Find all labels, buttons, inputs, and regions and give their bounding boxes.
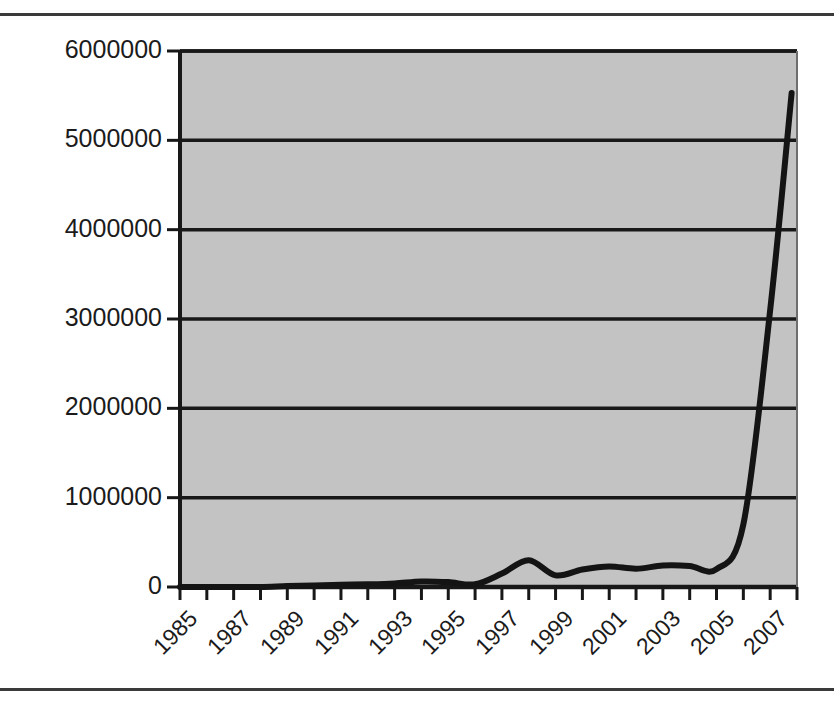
chart-plot-svg (0, 0, 834, 702)
y-axis-tick-label: 6000000 (65, 35, 162, 64)
y-axis-tick-label: 1000000 (65, 482, 162, 511)
y-axis-tick-label: 4000000 (65, 214, 162, 243)
y-axis-tick-label: 2000000 (65, 392, 162, 421)
y-axis-tick-label: 3000000 (65, 303, 162, 332)
line-chart: 0100000020000003000000400000050000006000… (0, 0, 834, 702)
y-axis-tick-label: 0 (148, 571, 162, 600)
figure-canvas: 0100000020000003000000400000050000006000… (0, 0, 834, 702)
y-axis-tick-label: 5000000 (65, 124, 162, 153)
